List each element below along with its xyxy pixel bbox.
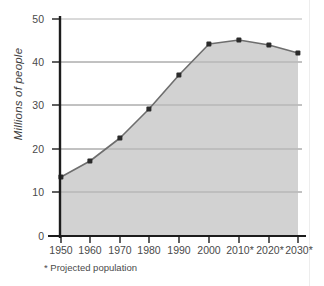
data-point-1980 xyxy=(146,106,151,111)
data-point-2000 xyxy=(206,41,211,46)
chart-plot-area xyxy=(0,0,324,286)
data-point-2010 xyxy=(236,37,241,42)
data-point-1970 xyxy=(117,135,122,140)
data-point-2020 xyxy=(266,42,271,47)
chart-footnote: * Projected population xyxy=(44,262,137,273)
data-point-1990 xyxy=(176,72,181,77)
area-fill xyxy=(61,40,298,236)
population-chart-figure: Millions of people 50 40 30 20 10 0 1950… xyxy=(0,0,324,286)
x-axis-ticks xyxy=(61,236,298,243)
data-point-1960 xyxy=(87,158,92,163)
data-point-2030 xyxy=(295,50,300,55)
